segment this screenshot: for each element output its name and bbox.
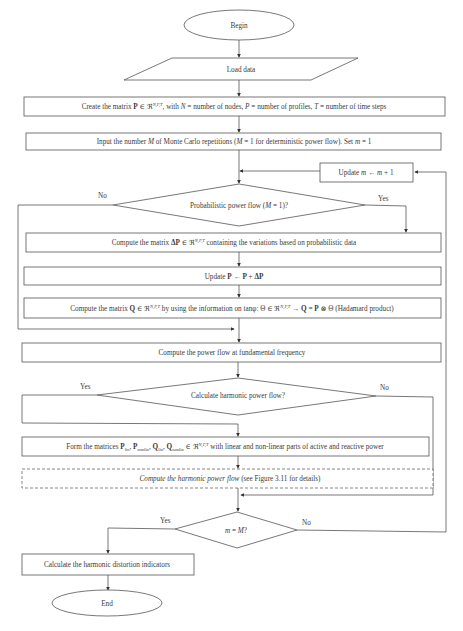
edge-label-harm-yes: Yes	[80, 383, 91, 391]
create-matrix-process: Create the matrix P ∈ ℜN,P,T, with N = n…	[24, 97, 445, 116]
harmonic-decision-label: Calculate harmonic power flow?	[191, 392, 285, 400]
update-m-process: Update m ← m + 1	[320, 163, 413, 182]
distortion-process: Calculate the harmonic distortion indica…	[22, 554, 194, 575]
harmonic-pf-subprocess: Compute the harmonic power flow (see Fig…	[22, 469, 433, 488]
compute-q-process: Compute the matrix Q ∈ ℜN,P,T by using t…	[24, 298, 441, 318]
harmonic-decision: Calculate harmonic power flow?	[97, 378, 376, 415]
edge-label-loop-no: No	[302, 519, 311, 527]
edge-label-prob-no: No	[98, 192, 107, 200]
compute-q-label: Compute the matrix Q ∈ ℜN,P,T by using t…	[70, 304, 394, 313]
edge-label-prob-yes: Yes	[378, 195, 389, 203]
loop-decision: m = M?	[175, 512, 297, 548]
load-data-io: Load data	[124, 58, 358, 80]
distortion-label: Calculate the harmonic distortion indica…	[44, 561, 170, 569]
input-m-label: Input the number M of Monte Carlo repeti…	[97, 138, 372, 146]
arrow-prob-yes	[365, 205, 406, 232]
compute-delta-p-label: Compute the matrix ΔP ∈ ℜN,P,T containin…	[112, 238, 357, 247]
fundamental-pf-label: Compute the power flow at fundamental fr…	[159, 349, 306, 357]
probabilistic-decision-label: Probabilistic power flow (M = 1)?	[190, 202, 288, 210]
begin-label: Begin	[230, 22, 248, 30]
input-m-process: Input the number M of Monte Carlo repeti…	[26, 133, 441, 150]
update-p-process: Update P ← P + ΔP	[24, 267, 441, 285]
edge-label-harm-no: No	[380, 384, 389, 392]
compute-delta-p-process: Compute the matrix ΔP ∈ ℜN,P,T containin…	[26, 233, 441, 252]
flowchart-canvas: Begin Load data Create the matrix P ∈ ℜN…	[0, 0, 463, 631]
begin-terminal: Begin	[184, 10, 294, 40]
edge-label-loop-yes: Yes	[160, 517, 171, 525]
end-label: End	[101, 600, 113, 608]
update-m-label: Update m ← m + 1	[339, 169, 394, 177]
end-terminal: End	[52, 590, 162, 616]
arrow-loop-yes	[108, 528, 175, 553]
update-p-label: Update P ← P + ΔP	[205, 273, 264, 281]
loop-decision-label: m = M?	[225, 527, 247, 535]
create-matrix-label: Create the matrix P ∈ ℜN,P,T, with N = n…	[82, 102, 387, 111]
form-matrices-process: Form the matrices Plin, Pnonlin, Qlin, Q…	[22, 437, 429, 456]
fundamental-pf-process: Compute the power flow at fundamental fr…	[22, 343, 441, 362]
harmonic-pf-label: Compute the harmonic power flow (see Fig…	[140, 475, 322, 483]
probabilistic-decision: Probabilistic power flow (M = 1)?	[113, 184, 365, 226]
load-data-label: Load data	[227, 66, 256, 74]
form-matrices-label: Form the matrices Plin, Pnonlin, Qlin, Q…	[66, 442, 384, 452]
